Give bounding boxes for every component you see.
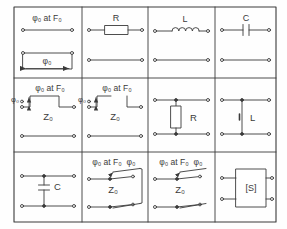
label-r1c1-inner: φ₀ [42, 56, 52, 66]
schematic-canvas: φ₀ at F₀ φ₀ R L C φ₀ at F₀ φ₀ Z₀ φ₀ at F… [0, 0, 287, 229]
cell-shunt-inductor [221, 99, 271, 136]
label-r2c1-impedance: Z₀ [43, 111, 53, 122]
label-r2c2-impedance: Z₀ [110, 111, 120, 122]
label-r2c1-top: φ₀ at F₀ [35, 83, 65, 93]
cell-series-capacitor [221, 25, 271, 62]
cell-shunt-capacitor [21, 175, 76, 208]
label-r3c1-component: C [54, 181, 61, 192]
label-r2c2-left: φ₀ [78, 95, 86, 104]
label-r2c4-component: L [250, 112, 255, 123]
cell-series-resistor [88, 26, 144, 62]
label-r3c3-top-right: φ₀ [193, 157, 203, 167]
label-r1c4-component: C [243, 13, 250, 23]
cell-series-inductor [154, 28, 210, 62]
label-r3c2-top-right: φ₀ [126, 157, 136, 167]
cell-shunt-resistor [154, 99, 210, 136]
label-r3c2-top: φ₀ at F₀ [92, 157, 122, 167]
label-r2c1-left: φ₀ [11, 95, 19, 104]
label-r1c1-top: φ₀ at F₀ [32, 13, 62, 23]
label-r3c3-top: φ₀ at F₀ [159, 157, 189, 167]
label-r2c2-top: φ₀ at F₀ [102, 83, 132, 93]
label-r3c4-component: [S] [245, 183, 256, 193]
label-r1c3-component: L [182, 14, 187, 24]
label-r3c3-impedance: Z₀ [175, 184, 185, 195]
schematic-symbol-table: φ₀ at F₀ φ₀ R L C φ₀ at F₀ φ₀ Z₀ φ₀ at F… [0, 0, 287, 229]
label-r3c2-impedance: Z₀ [108, 184, 118, 195]
label-r2c3-component: R [190, 112, 197, 123]
label-r1c2-component: R [113, 13, 120, 23]
